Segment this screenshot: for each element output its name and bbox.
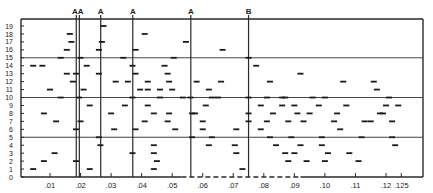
data-point-dash xyxy=(192,113,198,115)
data-point-dash xyxy=(374,89,380,91)
x-tick-label: .07 xyxy=(228,181,238,190)
data-point-dash xyxy=(183,41,189,43)
marker-label: A xyxy=(188,7,194,16)
data-point-dash xyxy=(41,113,47,115)
x-tick-label: .05 xyxy=(167,181,177,190)
data-point-dash xyxy=(58,57,64,59)
data-point-dash xyxy=(273,144,279,146)
data-point-dash xyxy=(239,168,245,170)
data-point-dash xyxy=(220,49,226,51)
data-point-dash xyxy=(157,89,163,91)
data-point-dash xyxy=(319,144,325,146)
data-point-dash xyxy=(270,113,276,115)
data-point-dash xyxy=(73,128,79,130)
data-point-dash xyxy=(301,120,307,122)
data-point-dash xyxy=(291,152,297,154)
y-tick-label: 7 xyxy=(9,118,13,125)
data-point-dash xyxy=(78,120,84,122)
data-point-dash xyxy=(322,97,328,99)
data-point-dash xyxy=(188,97,194,99)
vertical-marker-lines: AAAAAB xyxy=(72,7,252,177)
data-point-dash xyxy=(346,152,352,154)
data-point-dash xyxy=(87,105,93,107)
data-point-dash xyxy=(142,33,148,35)
data-point-dash xyxy=(96,73,102,75)
data-point-dash xyxy=(78,57,84,59)
data-point-dash xyxy=(232,144,238,146)
data-point-dash xyxy=(96,49,102,51)
data-point-dash xyxy=(218,81,224,83)
data-point-dash xyxy=(380,113,386,115)
data-point-dash xyxy=(285,160,291,162)
x-tick-label: .04 xyxy=(136,181,146,190)
y-tick-label: 6 xyxy=(9,126,13,133)
data-point-dash xyxy=(157,97,163,99)
data-point-dash xyxy=(133,73,139,75)
data-point-dash xyxy=(151,113,157,115)
data-point-dash xyxy=(166,81,172,83)
y-tick-label: 1 xyxy=(9,166,13,173)
data-point-dash xyxy=(133,49,139,51)
data-point-dash xyxy=(111,128,117,130)
data-point-dash xyxy=(151,152,157,154)
data-point-dash xyxy=(151,144,157,146)
data-point-dash xyxy=(392,144,398,146)
data-point-dash xyxy=(294,113,300,115)
data-point-dash xyxy=(264,97,270,99)
y-tick-label: 8 xyxy=(9,110,13,117)
data-point-dash xyxy=(145,105,151,107)
data-point-dash xyxy=(41,160,47,162)
data-point-dash xyxy=(133,128,139,130)
y-tick-label: 10 xyxy=(5,94,13,101)
data-point-dash xyxy=(307,113,313,115)
data-point-dash xyxy=(64,73,70,75)
data-point-dash xyxy=(122,105,128,107)
y-tick-label: 0 xyxy=(9,174,13,181)
data-point-dash xyxy=(319,136,325,138)
data-point-dash xyxy=(67,33,73,35)
data-point-dash xyxy=(279,97,285,99)
x-tick-label: .10 xyxy=(320,181,330,190)
data-point-dash xyxy=(310,97,316,99)
data-point-dash xyxy=(285,120,291,122)
data-point-dash xyxy=(120,57,126,59)
data-point-dash xyxy=(129,65,135,67)
data-point-dash xyxy=(395,105,401,107)
data-point-dash xyxy=(215,97,221,99)
y-tick-label: 17 xyxy=(5,38,13,45)
data-point-dash xyxy=(322,160,328,162)
data-point-dash xyxy=(362,120,368,122)
x-tick-label: .11 xyxy=(351,181,361,190)
y-tick-label: 5 xyxy=(9,134,13,141)
x-axis: .01.02.03.04.05.06.07.08.09.10.11.12.125 xyxy=(21,173,423,190)
y-tick-label: 4 xyxy=(9,142,13,149)
data-point-dash xyxy=(337,128,343,130)
data-point-dash xyxy=(267,81,273,83)
data-point-dash xyxy=(246,120,252,122)
y-tick-label: 16 xyxy=(5,46,13,53)
data-point-dash xyxy=(267,136,273,138)
data-point-dash xyxy=(96,136,102,138)
data-point-dash xyxy=(100,25,106,27)
data-point-dash xyxy=(386,97,392,99)
x-tick-label: .02 xyxy=(75,181,85,190)
data-point-dash xyxy=(70,81,76,83)
data-point-dash xyxy=(325,152,331,154)
data-point-dash xyxy=(383,105,389,107)
data-point-dash xyxy=(206,144,212,146)
x-tick-label: .08 xyxy=(259,181,269,190)
data-point-dash xyxy=(162,65,168,67)
data-point-dash xyxy=(389,120,395,122)
y-tick-label: 13 xyxy=(5,70,13,77)
data-point-dash xyxy=(194,81,200,83)
data-point-dash xyxy=(52,152,58,154)
data-point-dash xyxy=(189,136,195,138)
data-point-dash xyxy=(171,57,177,59)
data-point-dash xyxy=(258,128,264,130)
y-tick-label: 11 xyxy=(6,86,13,93)
data-point-dash xyxy=(334,113,340,115)
data-point-dash xyxy=(389,136,395,138)
data-point-dash xyxy=(343,105,349,107)
data-point-dash xyxy=(97,144,103,146)
y-tick-label: 15 xyxy=(5,54,13,61)
